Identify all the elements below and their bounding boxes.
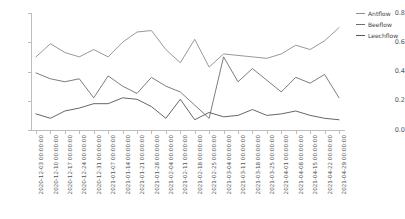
y-tick-label: 0.2	[379, 97, 405, 104]
chart-legend: AntflowBeeflowLeechflow	[356, 9, 405, 42]
chart-figure: 0.00.20.40.60.8 2020-12-03 00:00:002020-…	[0, 0, 405, 219]
plot-area	[31, 13, 344, 130]
x-tick-label: 2020-12-17 00:00:00	[67, 135, 73, 194]
legend-item-antflow[interactable]: Antflow	[356, 9, 405, 18]
x-tick-label: 2021-02-25 00:00:00	[211, 135, 217, 194]
legend-label: Leechflow	[368, 32, 398, 39]
x-tick-mark	[310, 131, 311, 134]
x-tick-mark	[36, 131, 37, 134]
x-tick-label: 2021-01-14 00:00:00	[125, 135, 131, 194]
x-tick-label: 2021-04-29 00:00:00	[341, 135, 347, 194]
legend-item-beeflow[interactable]: Beeflow	[356, 20, 405, 29]
x-tick-label: 2020-12-10 00:00:00	[53, 135, 59, 194]
x-tick-mark	[195, 131, 196, 134]
x-tick-label: 2021-04-15 00:00:00	[312, 135, 318, 194]
x-tick-mark	[296, 131, 297, 134]
x-tick-mark	[79, 131, 80, 134]
y-tick-label: 0.0	[379, 127, 405, 134]
x-tick-label: 2021-02-04 00:00:00	[168, 135, 174, 194]
x-tick-label: 2021-04-08 00:00:00	[298, 135, 304, 194]
series-line-leechflow	[36, 98, 339, 120]
x-tick-mark	[166, 131, 167, 134]
x-tick-label: 2021-03-25 00:00:00	[269, 135, 275, 194]
x-tick-label: 2021-01-07 00:00:00	[110, 135, 116, 194]
series-lines	[31, 13, 344, 130]
legend-swatch-icon	[356, 13, 365, 14]
x-tick-mark	[339, 131, 340, 134]
legend-label: Beeflow	[368, 21, 392, 28]
x-tick-mark	[151, 131, 152, 134]
legend-swatch-icon	[356, 35, 365, 36]
x-tick-mark	[123, 131, 124, 134]
x-tick-mark	[281, 131, 282, 134]
x-tick-mark	[65, 131, 66, 134]
x-tick-label: 2021-03-18 00:00:00	[255, 135, 261, 194]
legend-label: Antflow	[368, 10, 391, 17]
legend-item-leechflow[interactable]: Leechflow	[356, 31, 405, 40]
x-tick-label: 2021-03-11 00:00:00	[240, 135, 246, 194]
x-tick-label: 2021-04-22 00:00:00	[327, 135, 333, 194]
y-tick-label: 0.4	[379, 68, 405, 75]
x-axis-spine	[31, 130, 345, 131]
y-tick-mark	[28, 130, 31, 131]
x-tick-label: 2021-04-01 00:00:00	[283, 135, 289, 194]
x-tick-mark	[238, 131, 239, 134]
x-tick-mark	[50, 131, 51, 134]
x-tick-mark	[252, 131, 253, 134]
x-tick-label: 2020-12-31 00:00:00	[96, 135, 102, 194]
series-line-antflow	[36, 28, 339, 67]
x-tick-mark	[94, 131, 95, 134]
x-tick-label: 2021-01-28 00:00:00	[154, 135, 160, 194]
x-tick-label: 2021-01-21 00:00:00	[139, 135, 145, 194]
x-tick-mark	[137, 131, 138, 134]
x-tick-mark	[267, 131, 268, 134]
x-tick-label: 2021-02-11 00:00:00	[182, 135, 188, 194]
legend-swatch-icon	[356, 24, 365, 25]
x-tick-label: 2020-12-03 00:00:00	[38, 135, 44, 194]
x-tick-mark	[108, 131, 109, 134]
x-tick-label: 2020-12-24 00:00:00	[81, 135, 87, 194]
x-tick-label: 2021-03-04 00:00:00	[226, 135, 232, 194]
x-tick-mark	[180, 131, 181, 134]
x-tick-mark	[224, 131, 225, 134]
x-tick-label: 2021-02-18 00:00:00	[197, 135, 203, 194]
chart-title-clipped	[0, 0, 250, 6]
x-tick-mark	[209, 131, 210, 134]
x-tick-mark	[325, 131, 326, 134]
